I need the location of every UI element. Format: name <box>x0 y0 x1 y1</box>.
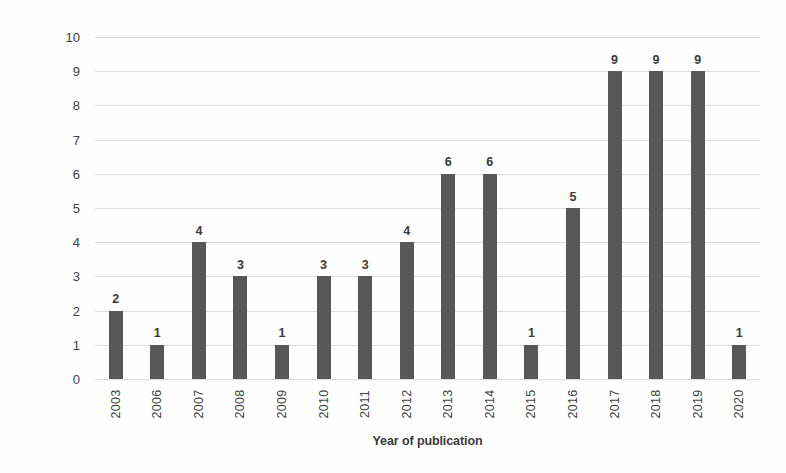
bar-value-label: 3 <box>237 259 244 272</box>
y-tick-label: 5 <box>40 202 80 215</box>
x-tick-label: 2014 <box>483 389 497 418</box>
bar-slot: 1 <box>261 37 303 379</box>
x-tick-label: 2006 <box>150 389 164 418</box>
x-tick-label: 2003 <box>109 389 123 418</box>
x-tick-label: 2013 <box>441 389 455 418</box>
bar-slot: 1 <box>718 37 760 379</box>
bar-value-label: 9 <box>611 54 618 67</box>
bar-value-label: 1 <box>736 327 743 340</box>
x-tick-label: 2015 <box>524 389 538 418</box>
x-tick-slot: 2011 <box>344 382 386 430</box>
x-tick-slot: 2015 <box>511 382 553 430</box>
bar-value-label: 3 <box>362 259 369 272</box>
bar-value-label: 4 <box>195 225 202 238</box>
bar[interactable] <box>566 208 580 379</box>
y-tick-label: 0 <box>40 373 80 386</box>
bar-value-label: 2 <box>112 293 119 306</box>
bar-value-label: 9 <box>694 54 701 67</box>
x-tick-label: 2008 <box>233 389 247 418</box>
x-tick-slot: 2019 <box>677 382 719 430</box>
x-tick-slot: 2018 <box>635 382 677 430</box>
bar[interactable] <box>441 174 455 379</box>
bar[interactable] <box>691 71 705 379</box>
bar-value-label: 6 <box>445 156 452 169</box>
x-tick-label: 2017 <box>608 389 622 418</box>
x-tick-slot: 2006 <box>137 382 179 430</box>
bar[interactable] <box>192 242 206 379</box>
bar-value-label: 1 <box>528 327 535 340</box>
bar[interactable] <box>732 345 746 379</box>
plot-area: 2143133466159991 <box>95 37 760 379</box>
x-tick-slot: 2014 <box>469 382 511 430</box>
bar-slot: 9 <box>635 37 677 379</box>
bar-value-label: 4 <box>403 225 410 238</box>
bar-slot: 6 <box>469 37 511 379</box>
bars-layer: 2143133466159991 <box>95 37 760 379</box>
y-tick-label: 10 <box>40 31 80 44</box>
x-tick-slot: 2013 <box>428 382 470 430</box>
bar-value-label: 1 <box>154 327 161 340</box>
x-tick-slot: 2009 <box>261 382 303 430</box>
x-tick-slot: 2003 <box>95 382 137 430</box>
bar-value-label: 5 <box>569 191 576 204</box>
x-tick-label: 2009 <box>275 389 289 418</box>
bar[interactable] <box>608 71 622 379</box>
bar-slot: 4 <box>178 37 220 379</box>
y-tick-label: 8 <box>40 99 80 112</box>
bar-value-label: 1 <box>279 327 286 340</box>
x-axis-tick-labels: 2003200620072008200920102011201220132014… <box>95 382 760 432</box>
y-axis-tick-labels: 109876543210 <box>48 37 80 379</box>
y-tick-label: 1 <box>40 339 80 352</box>
bar-slot: 5 <box>552 37 594 379</box>
bar-slot: 2 <box>95 37 137 379</box>
y-tick-label: 4 <box>40 236 80 249</box>
x-tick-label: 2020 <box>732 389 746 418</box>
bar-slot: 9 <box>594 37 636 379</box>
x-tick-slot: 2017 <box>594 382 636 430</box>
bar[interactable] <box>524 345 538 379</box>
bar[interactable] <box>233 276 247 379</box>
bar[interactable] <box>400 242 414 379</box>
x-tick-label: 2016 <box>566 389 580 418</box>
x-tick-slot: 2020 <box>718 382 760 430</box>
x-tick-slot: 2012 <box>386 382 428 430</box>
bar-value-label: 6 <box>486 156 493 169</box>
bar-slot: 1 <box>511 37 553 379</box>
y-tick-label: 2 <box>40 305 80 318</box>
bar-slot: 6 <box>428 37 470 379</box>
bar[interactable] <box>358 276 372 379</box>
x-tick-label: 2018 <box>649 389 663 418</box>
x-tick-slot: 2010 <box>303 382 345 430</box>
bar[interactable] <box>317 276 331 379</box>
x-tick-label: 2011 <box>358 390 372 418</box>
x-tick-label: 2007 <box>192 389 206 418</box>
x-tick-slot: 2007 <box>178 382 220 430</box>
bar-slot: 3 <box>220 37 262 379</box>
x-tick-slot: 2016 <box>552 382 594 430</box>
bar[interactable] <box>275 345 289 379</box>
x-tick-slot: 2008 <box>220 382 262 430</box>
bar-slot: 4 <box>386 37 428 379</box>
bar-value-label: 9 <box>653 54 660 67</box>
bar-slot: 3 <box>344 37 386 379</box>
bar[interactable] <box>109 311 123 379</box>
bar[interactable] <box>483 174 497 379</box>
bar[interactable] <box>649 71 663 379</box>
bar[interactable] <box>150 345 164 379</box>
y-tick-label: 6 <box>40 168 80 181</box>
gridline <box>95 379 760 380</box>
x-tick-label: 2019 <box>691 389 705 418</box>
x-tick-label: 2010 <box>317 389 331 418</box>
bar-slot: 9 <box>677 37 719 379</box>
bar-chart: Number of studies 109876543210 214313346… <box>0 0 786 473</box>
y-tick-label: 3 <box>40 270 80 283</box>
bar-slot: 3 <box>303 37 345 379</box>
bar-slot: 1 <box>137 37 179 379</box>
x-axis-title: Year of publication <box>95 434 760 448</box>
y-tick-label: 9 <box>40 65 80 78</box>
bar-value-label: 3 <box>320 259 327 272</box>
x-tick-label: 2012 <box>400 389 414 418</box>
y-tick-label: 7 <box>40 134 80 147</box>
